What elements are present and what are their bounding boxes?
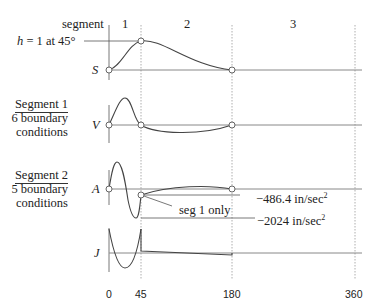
segment-3-label: 3 <box>290 17 296 31</box>
v-plot <box>106 98 362 143</box>
s-plot <box>84 25 362 80</box>
segment-label: segment <box>62 17 104 31</box>
j-plot <box>109 228 362 272</box>
seg1-only-label: seg 1 only <box>179 203 230 217</box>
x-tick-360: 360 <box>345 287 363 301</box>
x-tick-180: 180 <box>223 287 241 301</box>
h-annotation: h = 1 at 45° <box>17 34 76 48</box>
segment-2-label: 2 <box>184 17 190 31</box>
x-tick-45: 45 <box>135 287 147 301</box>
segment-2-line1: 5 boundary <box>4 182 68 196</box>
segment-1-line1: 6 boundary <box>4 111 68 125</box>
segment-1-label: 1 <box>122 17 128 31</box>
curve-label-j: J <box>94 246 100 260</box>
x-tick-0: 0 <box>106 287 112 301</box>
accel-486-label: −486.4 in/sec2 <box>256 189 327 206</box>
segment-2-note: Segment 2 5 boundary conditions <box>4 168 68 210</box>
curve-label-s: S <box>92 63 98 77</box>
curve-label-v: V <box>92 118 100 132</box>
segment-1-note: Segment 1 6 boundary conditions <box>4 97 68 139</box>
curve-label-a: A <box>92 182 100 196</box>
segment-boundaries <box>141 25 355 280</box>
accel-2024-label: −2024 in/sec2 <box>257 211 325 228</box>
segment-2-line2: conditions <box>4 196 68 210</box>
segment-1-line2: conditions <box>4 125 68 139</box>
